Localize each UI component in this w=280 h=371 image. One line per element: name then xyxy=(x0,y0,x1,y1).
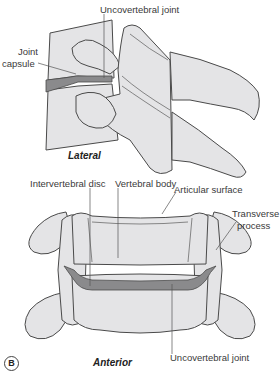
label-transverse-process-line1: Transverse xyxy=(232,208,279,219)
label-uncovertebral-joint-anterior: Uncovertebral joint xyxy=(170,352,249,363)
anterior-upper-body xyxy=(72,213,208,265)
label-vertebral-body: Vertebral body xyxy=(115,178,176,189)
label-intervertebral-disc: Intervertebral disc xyxy=(30,178,106,189)
label-joint-capsule-line1: Joint xyxy=(12,46,38,57)
lateral-lower-process xyxy=(172,112,246,177)
view-title-lateral: Lateral xyxy=(68,150,101,161)
label-articular-surface: Articular surface xyxy=(174,184,243,195)
label-transverse-process-line2: process xyxy=(237,220,270,231)
lateral-upper-process xyxy=(170,52,259,120)
panel-label-badge: B xyxy=(4,356,19,371)
view-title-anterior: Anterior xyxy=(93,357,132,368)
label-joint-capsule-line2: capsule xyxy=(2,58,35,69)
label-uncovertebral-joint-lateral: Uncovertebral joint xyxy=(100,4,179,15)
